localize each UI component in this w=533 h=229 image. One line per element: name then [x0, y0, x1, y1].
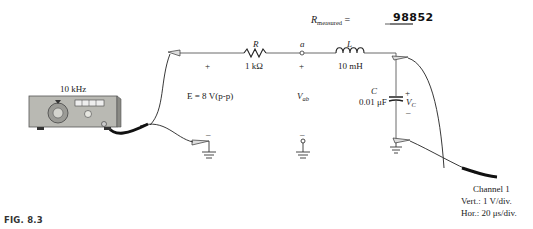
inductor-value: 10 mH	[338, 61, 363, 71]
circuit-diagram	[0, 0, 533, 229]
minus-sign: –	[300, 129, 305, 139]
output-jack[interactable]	[102, 122, 107, 127]
function-generator	[29, 96, 121, 130]
node-a	[300, 51, 304, 55]
capacitor-symbol-label: C	[371, 86, 377, 96]
resistor-symbol-label: R	[253, 39, 259, 49]
ground-icon	[202, 141, 216, 158]
r-measured-value: 98852	[393, 11, 434, 24]
source-voltage-label: E = 8 V(p-p)	[187, 91, 233, 101]
scope-horizontal-setting: Hor.: 20 μs/div.	[461, 208, 517, 218]
alligator-clip	[393, 138, 410, 143]
alligator-clip	[192, 140, 209, 145]
lead-wire	[140, 124, 193, 142]
resistor-symbol	[244, 49, 266, 57]
alligator-clip	[392, 56, 408, 60]
node-a-label: a	[300, 39, 305, 49]
display-window	[75, 100, 104, 106]
scope-lead	[408, 58, 444, 168]
scope-cable	[462, 168, 497, 177]
amplitude-knob[interactable]	[85, 111, 92, 118]
vc-label: VC	[406, 97, 416, 110]
inductor-symbol-label: L	[347, 39, 352, 49]
scope-vertical-setting: Vert.: 1 V/div.	[461, 196, 512, 206]
plus-sign: +	[205, 61, 210, 71]
figure-caption: FIG. 8.3	[4, 215, 43, 225]
generator-frequency: 10 kHz	[60, 84, 86, 94]
resistor-value: 1 kΩ	[245, 61, 263, 71]
lead-wire	[150, 54, 170, 125]
plus-sign: +	[299, 61, 304, 71]
vab-label: Vab	[297, 91, 309, 104]
ground-icon	[296, 139, 310, 158]
capacitor-value: 0.01 μF	[359, 97, 387, 107]
capacitor-symbol	[389, 97, 403, 101]
minus-sign: –	[206, 129, 211, 139]
scope-channel: Channel 1	[473, 184, 510, 194]
r-measured-label: Rmeasured =	[311, 15, 350, 28]
